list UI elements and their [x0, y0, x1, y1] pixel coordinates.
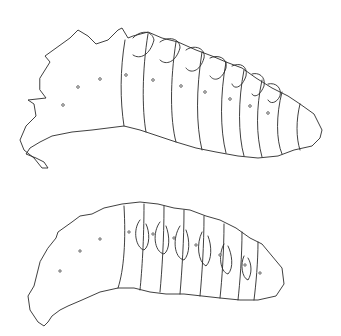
upper-larva [20, 28, 322, 168]
larvae-drawing [0, 0, 341, 336]
lower-larva [28, 202, 284, 326]
illustration [0, 0, 341, 336]
